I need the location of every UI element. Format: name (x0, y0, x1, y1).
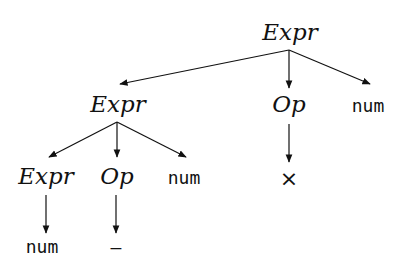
edge-expr-expr (49, 122, 117, 157)
node-minus: – (111, 237, 122, 258)
node-expr: Expr (89, 91, 147, 117)
edge-expr-num (117, 122, 186, 157)
node-expr-leaf-parent: Expr (17, 163, 75, 189)
parse-tree-diagram: Expr Expr Op num Expr Op num × num – (0, 0, 409, 269)
node-num: num (352, 95, 385, 116)
node-root-expr: Expr (261, 19, 319, 45)
node-times: × (280, 166, 298, 191)
node-num-level3: num (168, 167, 201, 188)
node-num-leaf: num (26, 236, 59, 257)
edge-root-num (289, 50, 370, 84)
tree-edges (46, 50, 370, 233)
edge-root-expr (120, 50, 289, 84)
node-op: Op (272, 91, 306, 117)
node-op-leaf-parent: Op (100, 163, 134, 189)
